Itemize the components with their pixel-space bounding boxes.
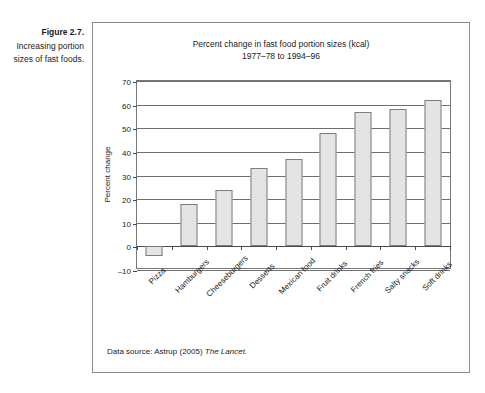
y-tick-label: 30 — [122, 172, 131, 181]
bar-slot — [380, 81, 415, 268]
y-tick-label: 20 — [122, 196, 131, 205]
x-tick-mark — [311, 246, 312, 250]
bar-french-fries — [355, 112, 372, 247]
figure-caption-text: Increasing portion sizes of fast foods. — [8, 40, 84, 66]
figure-panel: Percent change in fast food portion size… — [92, 22, 470, 373]
x-label-slot: Cheeseburgers — [206, 269, 241, 329]
x-tick-mark — [450, 246, 451, 250]
bar-pizza — [146, 246, 163, 255]
bar-slot — [172, 81, 207, 268]
x-label-slot: Hamburgers — [171, 269, 206, 329]
x-label-slot: Fruit drinks — [311, 269, 346, 329]
y-tick-label: 70 — [122, 78, 131, 87]
bar-salty-snacks — [389, 109, 406, 246]
y-tick-label: 60 — [122, 101, 131, 110]
y-tick-label: –10 — [118, 267, 131, 276]
y-axis-title: Percent change — [101, 80, 113, 269]
y-tick-label: 40 — [122, 148, 131, 157]
bar-slot — [311, 81, 346, 268]
x-tick-mark — [276, 246, 277, 250]
bar-slot — [415, 81, 450, 268]
x-label-slot: Salty snacks — [381, 269, 416, 329]
y-tick-label: 50 — [122, 125, 131, 134]
bar-hamburgers — [181, 204, 198, 247]
bar-slot — [346, 81, 381, 268]
x-label-slot: French fries — [346, 269, 381, 329]
figure-caption-title: Figure 2.7. — [8, 26, 84, 39]
y-tick-label: 0 — [127, 243, 131, 252]
x-tick-mark — [415, 246, 416, 250]
bar-desserts — [250, 168, 267, 246]
y-tick-label: 10 — [122, 219, 131, 228]
chart-title: Percent change in fast food portion size… — [93, 39, 469, 62]
chart-title-line1: Percent change in fast food portion size… — [93, 39, 469, 51]
x-tick-mark — [346, 246, 347, 250]
x-tick-mark — [241, 246, 242, 250]
bar-soft-drinks — [424, 100, 441, 246]
source-note-journal: The Lancet. — [205, 347, 247, 356]
figure-caption: Figure 2.7. Increasing portion sizes of … — [8, 26, 84, 66]
x-axis-labels: PizzaHamburgersCheeseburgersDessertsMexi… — [136, 269, 451, 329]
bar-slot — [137, 81, 172, 268]
x-tick-mark — [380, 246, 381, 250]
x-label-slot: Mexican food — [276, 269, 311, 329]
x-tick-label: Pizza — [147, 266, 167, 286]
plot-area: 706050403020100–10 — [136, 80, 451, 269]
y-axis-title-label: Percent change — [103, 146, 112, 202]
bar-slot — [241, 81, 276, 268]
x-label-slot: Desserts — [241, 269, 276, 329]
chart-title-line2: 1977–78 to 1994–96 — [93, 51, 469, 63]
bar-mexican-food — [285, 159, 302, 246]
x-tick-mark — [172, 246, 173, 250]
x-tick-mark — [137, 246, 138, 250]
x-tick-mark — [207, 246, 208, 250]
x-label-slot: Soft drinks — [416, 269, 451, 329]
x-label-slot: Pizza — [136, 269, 171, 329]
bar-fruit-drinks — [320, 133, 337, 246]
bar-slot — [276, 81, 311, 268]
bar-slot — [207, 81, 242, 268]
bar-series — [137, 81, 450, 268]
bar-cheeseburgers — [215, 190, 232, 247]
source-note: Data source: Astrup (2005) The Lancet. — [107, 347, 247, 356]
source-note-text: Data source: Astrup (2005) — [107, 347, 203, 356]
